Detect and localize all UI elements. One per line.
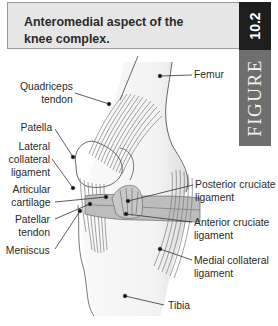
label-patella: Patella — [20, 121, 52, 134]
label-quadriceps-tendon: Quadriceps tendon — [20, 80, 73, 106]
label-text: Tibia — [168, 299, 190, 312]
label-lateral-collateral-ligament: Lateral collateral ligament — [9, 140, 50, 179]
label-text: Articular — [11, 183, 50, 196]
label-articular-cartilage: Articular cartilage — [11, 183, 50, 209]
label-anterior-cruciate-ligament: Anterior cruciate ligament — [194, 216, 269, 242]
label-text: Anterior cruciate — [194, 216, 269, 229]
label-femur: Femur — [194, 68, 224, 81]
label-text: Meniscus — [6, 244, 50, 257]
label-text: ligament — [194, 229, 269, 242]
label-text: tendon — [20, 93, 73, 106]
label-text: tendon — [15, 226, 50, 239]
label-text: ligament — [9, 166, 50, 179]
label-text: Femur — [194, 68, 224, 81]
label-text: cartilage — [11, 196, 50, 209]
label-text: Medial collateral — [194, 254, 269, 267]
label-text: Quadriceps — [20, 80, 73, 93]
label-text: Posterior cruciate — [195, 178, 276, 191]
label-text: ligament — [194, 267, 269, 280]
label-patellar-tendon: Patellar tendon — [15, 213, 50, 239]
label-meniscus: Meniscus — [6, 244, 50, 257]
label-text: Patella — [20, 121, 52, 134]
label-text: collateral — [9, 153, 50, 166]
label-text: ligament — [195, 191, 276, 204]
label-medial-collateral-ligament: Medial collateral ligament — [194, 254, 269, 280]
label-tibia: Tibia — [168, 299, 190, 312]
label-text: Lateral — [9, 140, 50, 153]
label-text: Patellar — [15, 213, 50, 226]
femur-shape — [88, 62, 190, 200]
label-posterior-cruciate-ligament: Posterior cruciate ligament — [195, 178, 276, 204]
